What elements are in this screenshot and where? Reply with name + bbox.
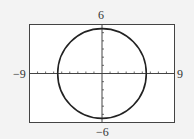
- plot-area: [0, 0, 194, 139]
- y-max-label: 6: [98, 9, 104, 21]
- y-min-label: −6: [96, 126, 109, 138]
- x-max-label: 9: [177, 68, 183, 80]
- x-min-label: −9: [13, 68, 26, 80]
- graph-window: 6 −6 −9 9: [0, 0, 194, 139]
